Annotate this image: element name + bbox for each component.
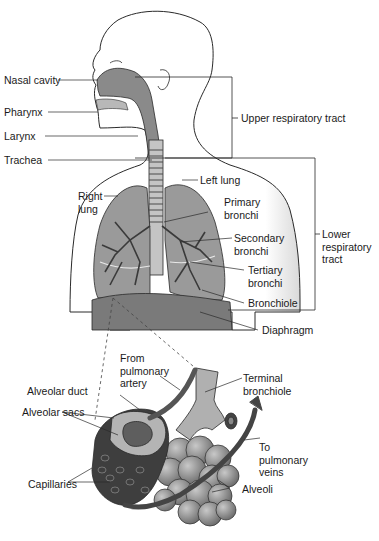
label-secondary-bronchi: Secondary bronchi — [234, 232, 284, 257]
label-trachea: Trachea — [4, 154, 42, 167]
label-tertiary-bronchi: Tertiary bronchi — [248, 264, 282, 289]
alveolar-sac-section — [92, 409, 169, 505]
label-alveolar-duct: Alveolar duct — [27, 385, 88, 398]
label-from-pulmonary-artery: From pulmonary artery — [120, 352, 169, 390]
respiratory-diagram: Nasal cavity Pharynx Larynx Trachea Uppe… — [0, 0, 379, 541]
label-left-lung: Left lung — [200, 174, 240, 187]
label-alveoli: Alveoli — [242, 483, 273, 496]
label-larynx: Larynx — [4, 130, 36, 143]
label-upper-respiratory-tract: Upper respiratory tract — [241, 112, 345, 125]
label-alveolar-sacs: Alveolar sacs — [22, 406, 84, 419]
label-primary-bronchi: Primary bronchi — [224, 196, 260, 221]
label-right-lung: Right lung — [78, 190, 103, 215]
label-terminal-bronchiole: Terminal bronchiole — [243, 372, 291, 397]
label-nasal-cavity: Nasal cavity — [4, 74, 61, 87]
label-bronchiole: Bronchiole — [248, 297, 298, 310]
terminal-bronchiole-shape — [176, 368, 237, 440]
label-capillaries: Capillaries — [28, 478, 77, 491]
label-pharynx: Pharynx — [4, 106, 43, 119]
label-lower-respiratory-tract: Lower respiratory tract — [322, 228, 372, 266]
label-to-pulmonary-veins: To pulmonary veins — [259, 441, 308, 479]
label-diaphragm: Diaphragm — [262, 324, 313, 337]
